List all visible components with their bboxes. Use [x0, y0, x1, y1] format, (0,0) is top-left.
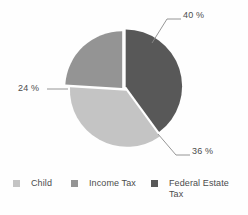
data-label-federal-estate-tax: 40 %: [183, 10, 204, 20]
square-swatch-icon: [71, 180, 78, 187]
legend-item-label: Federal Estate Tax: [169, 178, 231, 200]
legend-item-income-tax[interactable]: Income Tax: [71, 178, 136, 189]
legend-item-label: Child: [31, 178, 52, 189]
legend-item-child[interactable]: Child: [13, 178, 52, 189]
square-swatch-icon: [13, 180, 20, 187]
leader-line-child: [158, 134, 190, 155]
pie-plot-area: 40 % 24 % 36 %: [0, 0, 248, 168]
data-label-child: 36 %: [192, 146, 213, 156]
pie-chart: 40 % 24 % 36 % Child Income Tax Federal …: [0, 0, 248, 215]
chart-legend: Child Income Tax Federal Estate Tax: [0, 170, 248, 215]
square-swatch-icon: [151, 180, 158, 187]
pie-slice-income-tax[interactable]: [65, 31, 122, 88]
data-label-income-tax: 24 %: [18, 83, 39, 93]
legend-item-federal-estate-tax[interactable]: Federal Estate Tax: [151, 178, 231, 200]
legend-item-label: Income Tax: [89, 178, 136, 189]
